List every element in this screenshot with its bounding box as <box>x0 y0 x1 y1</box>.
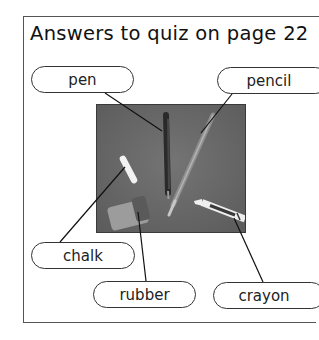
label-rubber-text: rubber <box>119 286 169 304</box>
label-pencil: pencil <box>217 67 319 94</box>
frame-left-border <box>23 16 24 323</box>
pen-object <box>166 115 169 199</box>
photo-illustration <box>97 105 246 233</box>
frame-top-border <box>23 16 319 17</box>
label-crayon: crayon <box>213 282 319 309</box>
frame-bottom-border <box>23 322 316 323</box>
page-title: Answers to quiz on page 22 <box>30 22 309 45</box>
label-crayon-text: crayon <box>238 287 289 305</box>
stationery-photo <box>96 104 246 233</box>
label-pen: pen <box>31 66 134 93</box>
label-chalk: chalk <box>31 242 135 269</box>
label-chalk-text: chalk <box>63 247 103 265</box>
label-rubber: rubber <box>93 281 196 308</box>
label-pen-text: pen <box>68 71 96 89</box>
label-pencil-text: pencil <box>247 72 292 90</box>
